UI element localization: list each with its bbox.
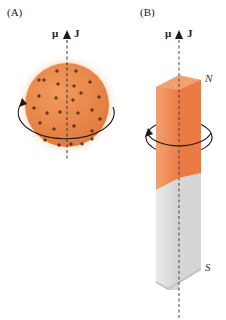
panel-a: [15, 30, 119, 160]
axis-arrowhead-a: [63, 30, 71, 39]
bar-north-side: [179, 77, 201, 178]
bar-south-front: [156, 178, 179, 290]
diagram-canvas: [0, 0, 226, 320]
bar-north-front: [156, 77, 179, 190]
panel-b: [145, 30, 212, 318]
axis-arrowhead-b: [175, 30, 183, 39]
